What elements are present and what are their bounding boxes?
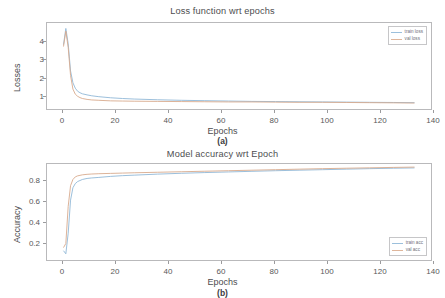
legend-line-icon [391,32,402,33]
legend-loss: train loss val loss [388,26,427,45]
x-tick-label: 40 [153,116,183,125]
loss-curves-svg [47,23,431,109]
x-tick-label: 100 [312,267,342,276]
y-tick-label: 0.2 [20,239,40,248]
chart-title-accuracy: Model accuracy wrt Epoch [0,149,445,159]
y-tick-label: 0.6 [20,197,40,206]
x-tick-label: 40 [153,267,183,276]
y-tick-label: 0.8 [20,176,40,185]
legend-item: val loss [391,36,423,42]
x-tick-label: 60 [206,116,236,125]
x-tick-label: 20 [100,267,130,276]
legend-line-icon [392,250,403,251]
x-tick-label: 20 [100,116,130,125]
x-tick-label: 80 [259,116,289,125]
x-axis-ticks-loss: 0 20 40 60 80 100 120 140 [46,110,432,126]
legend-item: train acc [392,240,423,246]
y-tick-label: 1 [24,92,44,101]
x-axis-label-accuracy: Epochs [0,277,445,287]
legend-line-icon [391,39,402,40]
legend-line-icon [392,243,403,244]
subcaption-b: (b) [0,288,445,298]
x-tick-label: 100 [312,116,342,125]
chart-panel-accuracy: Model accuracy wrt Epoch Accuracy 0.2 0.… [0,147,445,295]
x-tick-label: 140 [418,267,445,276]
x-axis-label-loss: Epochs [0,126,445,136]
x-tick-label: 0 [47,116,77,125]
legend-item: val acc [392,247,423,253]
y-tick-label: 3 [24,55,44,64]
legend-label: train acc [406,240,423,246]
x-axis-ticks-accuracy: 0 20 40 60 80 100 120 140 [46,261,432,277]
legend-item: train loss [391,29,423,35]
subcaption-a: (a) [0,136,445,146]
y-tick-label: 2 [24,74,44,83]
x-tick-label: 0 [47,267,77,276]
legend-label: val loss [405,36,420,42]
chart-panel-loss: Loss function wrt epochs Losses 1 2 3 4 … [0,0,445,148]
y-tick-label: 4 [24,37,44,46]
legend-label: train loss [405,29,423,35]
plot-area-loss: train loss val loss [46,22,432,110]
x-tick-label: 80 [259,267,289,276]
y-tick-label: 0.4 [20,218,40,227]
x-tick-label: 140 [418,116,445,125]
y-axis-ticks-loss: 1 2 3 4 [18,22,44,110]
legend-label: val acc [406,247,420,253]
chart-title-loss: Loss function wrt epochs [0,6,445,16]
x-tick-label: 60 [206,267,236,276]
legend-accuracy: train acc val acc [389,237,427,256]
x-tick-label: 120 [365,116,395,125]
accuracy-curves-svg [47,164,431,260]
x-tick-label: 120 [365,267,395,276]
y-axis-ticks-accuracy: 0.2 0.4 0.6 0.8 [14,163,40,261]
plot-area-accuracy: train acc val acc [46,163,432,261]
